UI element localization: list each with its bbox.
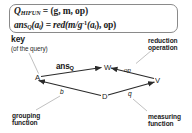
leader-grouping (36, 96, 60, 110)
formula-line-2: ansQ(ai) = red(m/g-1(ai), op) (14, 19, 116, 30)
leader-key (29, 53, 39, 74)
annotation-reduction-operation: reduction operation (148, 37, 178, 52)
annotation-grouping-line1: grouping (12, 112, 40, 119)
edge-label-ansq-text: ans (56, 62, 70, 71)
leader-reduction (136, 50, 152, 64)
edge-label-q: q (128, 90, 132, 97)
leader-lines (29, 50, 152, 111)
formula-red-end: ), op) (96, 20, 116, 30)
formula-line-1: QHIFUN = (g, m, op) (14, 6, 88, 16)
edge-label-ansq: ansQ (56, 62, 74, 71)
formula-equals-2: = (46, 20, 51, 30)
node-D: D (102, 92, 107, 101)
leader-measuring (133, 99, 147, 111)
annotation-reduction-line1: reduction (148, 37, 178, 44)
diagram-canvas: QHIFUN = (g, m, op) ansQ(ai) = red(m/g-1… (0, 0, 192, 133)
formula-arg-open: (a (31, 20, 39, 30)
formula-box: QHIFUN = (g, m, op) ansQ(ai) = red(m/g-1… (9, 4, 178, 33)
annotation-measuring-line2: function (148, 120, 181, 127)
formula-q-symbol: Q (14, 6, 21, 16)
formula-equals-1: = (43, 6, 48, 16)
formula-q-subscript: HIFUN (21, 9, 41, 16)
annotation-grouping-line2: function (12, 119, 40, 126)
formula-red-head: red(m/g (53, 20, 82, 30)
formula-ans-symbol: ans (14, 20, 27, 30)
annotation-reduction-line2: operation (148, 44, 178, 51)
edge-label-op: op (124, 66, 131, 73)
edge-D-to-A (39, 81, 102, 96)
annotation-measuring-line1: measuring (148, 113, 181, 120)
node-V: V (155, 76, 160, 85)
diagram-edges (39, 68, 155, 96)
edge-label-b: b (60, 88, 64, 95)
node-W: W (104, 63, 111, 72)
edge-label-ansq-subscript: Q (70, 65, 74, 71)
node-A: A (35, 73, 40, 82)
edge-V-to-W (111, 68, 154, 79)
formula-arg-close: ) (40, 20, 43, 30)
annotation-grouping-function: grouping function (12, 112, 40, 127)
annotation-key-title: key (11, 35, 25, 45)
annotation-key-subtitle: (of the query) (11, 45, 48, 52)
formula-triple: (g, m, op) (50, 6, 88, 16)
annotation-measuring-function: measuring function (148, 113, 181, 128)
formula-red-tail: (a (87, 20, 95, 30)
